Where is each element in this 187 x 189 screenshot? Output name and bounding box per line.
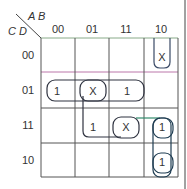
cell-11-01: 1 xyxy=(90,121,96,133)
cell-01-01: X xyxy=(89,85,97,97)
cell-10-10: 1 xyxy=(159,156,165,168)
cells: X 1 X 1 1 X 1 1 xyxy=(54,51,166,168)
cell-11-10: 1 xyxy=(159,121,165,133)
cell-11-11: X xyxy=(122,121,130,133)
karnaugh-map: A B C D 00 01 11 10 00 01 11 10 xyxy=(0,0,187,189)
col-header-11: 11 xyxy=(120,23,131,35)
col-header-00: 00 xyxy=(52,23,64,35)
cell-01-00: 1 xyxy=(54,85,60,97)
col-header-10: 10 xyxy=(155,23,167,35)
row-header-11: 11 xyxy=(22,119,33,131)
cell-01-11: 1 xyxy=(124,85,130,97)
var-left-label: C D xyxy=(8,25,27,37)
col-header-01: 01 xyxy=(86,23,98,35)
row-header-00: 00 xyxy=(22,49,34,61)
row-header-10: 10 xyxy=(22,154,34,166)
row-header-01: 01 xyxy=(22,84,34,96)
cell-00-10: X xyxy=(158,51,166,63)
square-group xyxy=(83,96,121,137)
var-top-label: A B xyxy=(27,10,45,22)
